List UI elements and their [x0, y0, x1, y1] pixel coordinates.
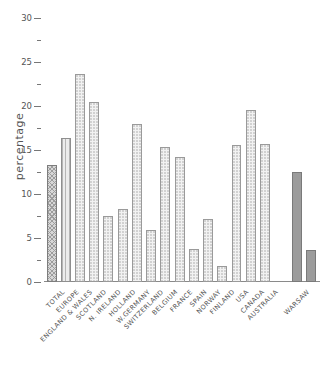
- y-tick: [34, 194, 41, 195]
- y-tick-label: 20: [21, 101, 32, 111]
- y-tick-minor: [37, 84, 41, 85]
- y-tick-minor: [37, 128, 41, 129]
- bar[interactable]: [89, 102, 99, 282]
- y-tick: [34, 282, 41, 283]
- y-tick: [34, 62, 41, 63]
- chart-root: percentage 051015202530 TOTALEUROPEENGLA…: [0, 0, 328, 366]
- bar[interactable]: [75, 74, 85, 282]
- y-tick-minor: [37, 216, 41, 217]
- bar[interactable]: [47, 165, 57, 282]
- bar[interactable]: [103, 216, 113, 282]
- y-tick: [34, 238, 41, 239]
- y-tick: [34, 150, 41, 151]
- y-tick-label: 0: [27, 277, 32, 287]
- y-tick-label: 10: [21, 189, 32, 199]
- x-axis-label: WARSAW: [282, 288, 311, 317]
- y-tick-minor: [37, 40, 41, 41]
- bar[interactable]: [217, 266, 227, 282]
- bar[interactable]: [246, 110, 256, 282]
- bar[interactable]: [203, 219, 213, 282]
- bar[interactable]: [118, 209, 128, 282]
- y-tick-label: 30: [21, 13, 32, 23]
- bar[interactable]: [175, 157, 185, 282]
- bar[interactable]: [61, 138, 71, 282]
- x-axis-labels: TOTALEUROPEENGLAND & WALESSCOTLANDN. IRE…: [44, 284, 328, 364]
- y-tick-minor: [37, 260, 41, 261]
- bar[interactable]: [260, 144, 270, 282]
- bar[interactable]: [306, 250, 316, 282]
- y-tick-label: 15: [21, 145, 32, 155]
- y-tick-minor: [37, 172, 41, 173]
- plot-area: 051015202530: [44, 18, 328, 282]
- bar[interactable]: [232, 145, 242, 282]
- y-tick: [34, 18, 41, 19]
- bar[interactable]: [189, 249, 199, 282]
- bar[interactable]: [132, 124, 142, 282]
- y-tick-label: 5: [27, 233, 32, 243]
- bar[interactable]: [146, 230, 156, 282]
- bar[interactable]: [292, 172, 302, 282]
- bar[interactable]: [160, 147, 170, 282]
- y-tick-label: 25: [21, 57, 32, 67]
- y-tick: [34, 106, 41, 107]
